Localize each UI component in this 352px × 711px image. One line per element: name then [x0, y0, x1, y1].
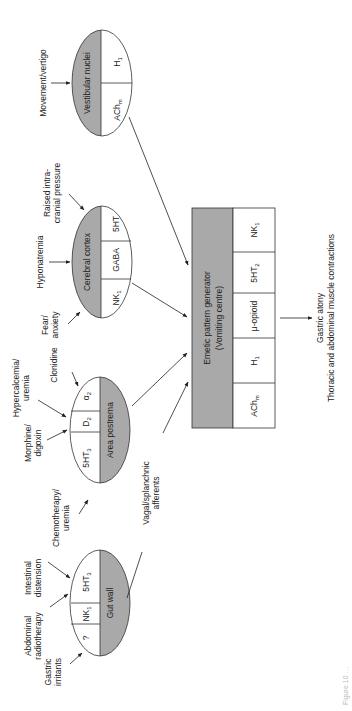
receptor-alpha2: α2	[81, 391, 92, 400]
cerebral-to-emetic-arrow	[132, 283, 187, 317]
receptor-mu-opioid: μ-opioid	[249, 301, 259, 332]
vagal-to-emetic-arrow	[163, 382, 188, 433]
stimulus-chemotherapy: Chemotherapy/uremia	[51, 488, 71, 547]
vagal-afferents-label: Vagal/splanchnicafferents	[141, 460, 161, 524]
gut-wall-node: Gut wall ? NK1 5HT3 Gastricirritants Abd…	[23, 549, 131, 686]
receptor-5ht3: 5HT3	[81, 448, 92, 468]
stimulus-intestinal-distension: Intestinaldistension	[23, 559, 43, 598]
receptor-nk1: NK1	[111, 290, 122, 306]
stimulus-fear: Fear/anxiety	[40, 311, 60, 339]
area-postrema-title: Area postrema	[105, 402, 115, 458]
receptor-d2: D2	[81, 417, 92, 427]
vestibular-nuclei-node: Vestibular nuclei AChm H1 Movement/verti…	[38, 30, 132, 137]
emetic-title: Emetic pattern generator	[202, 271, 212, 365]
stimulus-clonidine: Clonidine	[49, 347, 59, 383]
vestibular-title: Vestibular nuclei	[82, 52, 92, 114]
emetic-pattern-generator: Emetic pattern generator (Vomiting centr…	[192, 208, 275, 428]
stimulus-hypercalcemia: Hypercalcemia/uremia	[11, 358, 31, 417]
stimulus-movement: Movement/vertigo	[38, 49, 48, 117]
output-muscle-contractions: Thoracic and abdominal muscle contractio…	[326, 234, 336, 402]
gut-wall-vagal-line	[127, 552, 142, 598]
stimulus-abdominal-radiotherapy: Abdominalradiotherapy	[23, 612, 43, 660]
area-postrema-node: Area postrema 5HT3 D2 α2 Chemotherapy/ur…	[11, 347, 131, 547]
receptor-unknown: ?	[81, 635, 91, 640]
stimulus-hyponatremia: Hyponatremia	[35, 235, 45, 288]
area-postrema-to-emetic-arrow	[132, 353, 187, 406]
connectors: Vagal/splanchnicafferents	[127, 117, 188, 598]
stimulus-intracranial-pressure: Raised intra-cranial pressure	[42, 162, 62, 223]
output-gastric-atony: Gastric atony	[315, 292, 325, 343]
receptor-h1: H1	[112, 57, 123, 67]
vestibular-to-emetic-arrow	[129, 117, 188, 265]
output: Gastric atony Thoracic and abdominal mus…	[280, 234, 336, 402]
receptor-gaba: GABA	[111, 248, 121, 272]
emesis-pathway-diagram: Vestibular nuclei AChm H1 Movement/verti…	[0, 0, 352, 711]
stimulus-morphine: Morphine/digoxin	[23, 423, 43, 461]
receptor-5ht3: 5HT3	[81, 572, 92, 592]
receptor-achm: AChm	[112, 99, 123, 121]
gut-wall-title: Gut wall	[105, 588, 115, 619]
stimulus-gastric-irritants: Gastricirritants	[43, 658, 63, 686]
cerebral-cortex-node: Cerebral cortex NK1 GABA 5HT Fear/anxiet…	[35, 162, 132, 338]
figure-caption: Figure 10 …	[342, 666, 350, 705]
receptor-5ht: 5HT	[111, 216, 121, 232]
cerebral-title: Cerebral cortex	[82, 232, 92, 291]
emetic-subtitle: (Vomiting centre)	[214, 286, 224, 350]
receptor-nk1: NK1	[81, 606, 92, 622]
